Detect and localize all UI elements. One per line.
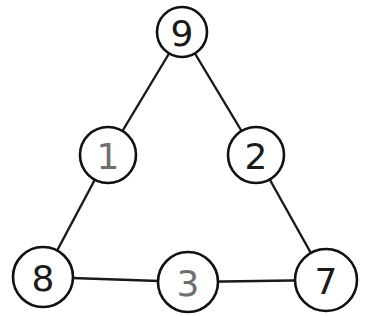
node-left-mid: 1 — [80, 127, 136, 183]
node-label: 9 — [171, 13, 194, 54]
nodes-group: 912837 — [13, 7, 357, 312]
node-right-mid: 2 — [228, 127, 284, 183]
node-label: 7 — [315, 261, 338, 302]
node-label: 8 — [32, 258, 55, 299]
number-triangle-diagram: 912837 — [0, 0, 365, 316]
node-label: 2 — [245, 136, 268, 177]
node-top: 9 — [157, 7, 207, 57]
node-label: 1 — [97, 136, 120, 177]
node-bottom-mid: 3 — [158, 252, 218, 312]
node-bottom-right: 7 — [295, 249, 357, 311]
node-label: 3 — [177, 263, 200, 304]
node-bottom-left: 8 — [13, 247, 73, 307]
